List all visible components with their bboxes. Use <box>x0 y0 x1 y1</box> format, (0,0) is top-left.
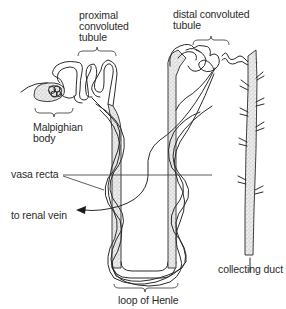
distal-brace <box>193 36 229 45</box>
proximal-convoluted-tubule <box>53 60 118 106</box>
distal-label-line2: tubule <box>173 20 250 31</box>
malpighian-label: Malpighian body <box>33 122 83 144</box>
proximal-label-line3: tubule <box>79 32 129 43</box>
proximal-brace <box>78 47 116 56</box>
malpighian-brace <box>35 108 73 117</box>
renal-vein-arrow-icon <box>76 206 86 214</box>
vasa-recta-leader <box>63 175 212 190</box>
vasa-recta-label: vasa recta <box>11 169 58 180</box>
loop-of-henle-label: loop of Henle <box>118 295 179 306</box>
collecting-duct-label: collecting duct <box>218 264 283 275</box>
renal-vein-vessel <box>84 68 215 211</box>
collecting-duct <box>238 50 264 272</box>
loop-of-henle-brace <box>114 283 178 292</box>
renal-vein-label: to renal vein <box>11 210 67 221</box>
proximal-label: proximal convoluted tubule <box>79 10 129 43</box>
distal-label: distal convoluted tubule <box>173 9 250 31</box>
malpighian-label-line2: body <box>33 133 83 144</box>
